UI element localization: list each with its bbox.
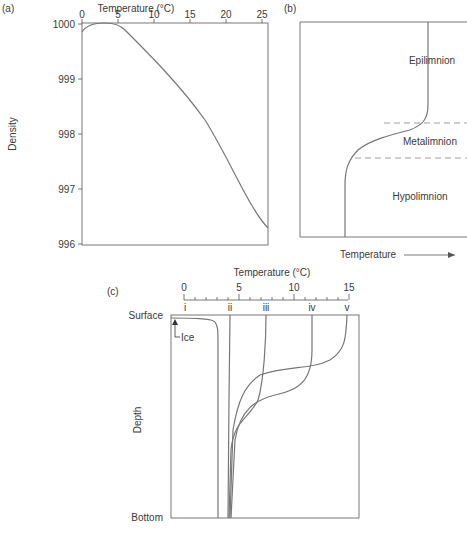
panel-a-density-curve bbox=[82, 23, 268, 228]
panel-a-y-tick-999: 999 bbox=[58, 74, 75, 85]
figure: (a) Temperature (°C) 0 5 10 15 20 25 bbox=[0, 0, 467, 537]
panel-c-profile-iii bbox=[229, 315, 266, 518]
panel-c-profile-label-iv: iv bbox=[308, 302, 315, 313]
panel-c-profile-v bbox=[230, 315, 347, 518]
panel-b-label: (b) bbox=[284, 3, 296, 14]
panel-a-x-tick-10: 10 bbox=[148, 9, 160, 20]
panel-b-epilimnion-label: Epilimnion bbox=[409, 55, 455, 66]
panel-c-x-tick-0: 0 bbox=[181, 282, 187, 293]
panel-a-x-tick-5: 5 bbox=[115, 9, 121, 20]
panel-c-profile-label-iii: iii bbox=[263, 302, 270, 313]
panel-c-label: (c) bbox=[107, 286, 119, 297]
panel-c-y-axis-title: Depth bbox=[132, 407, 143, 434]
panel-b-metalimnion-label: Metalimnion bbox=[403, 136, 457, 147]
panel-c-profile-label-v: v bbox=[345, 302, 350, 313]
panel-a-y-tick-998: 998 bbox=[58, 129, 75, 140]
panel-c-x-tick-15: 15 bbox=[343, 282, 355, 293]
panel-a-x-axis-title: Temperature (°C) bbox=[98, 3, 175, 14]
panel-b: (b) Epilimnion Metalimnion Hypolimnion T… bbox=[284, 3, 467, 260]
panel-c-profile-label-ii: ii bbox=[228, 302, 232, 313]
panel-a-y-tick-997: 997 bbox=[58, 184, 75, 195]
panel-a-y-tick-1000: 1000 bbox=[53, 19, 76, 30]
arrow-right-icon bbox=[448, 252, 455, 258]
panel-a-x-tick-20: 20 bbox=[220, 9, 232, 20]
panel-b-hypolimnion-label: Hypolimnion bbox=[392, 191, 447, 202]
panel-c-profile-label-i: i bbox=[184, 302, 186, 313]
panel-c: (c) Temperature (°C) 0 5 10 15 bbox=[107, 267, 359, 523]
panel-c-x-tick-10: 10 bbox=[288, 282, 300, 293]
arrow-up-icon bbox=[172, 319, 178, 325]
panel-a-x-tick-15: 15 bbox=[184, 9, 196, 20]
panel-c-profile-iv bbox=[231, 315, 312, 518]
panel-b-x-axis-title: Temperature bbox=[340, 249, 397, 260]
panel-c-x-axis-title: Temperature (°C) bbox=[234, 267, 311, 278]
panel-a-plot-frame bbox=[82, 23, 268, 245]
panel-c-bottom-label: Bottom bbox=[131, 512, 163, 523]
panel-c-ice-label: Ice bbox=[181, 332, 195, 343]
panel-c-surface-label: Surface bbox=[129, 310, 164, 321]
panel-a-y-axis-title: Density bbox=[7, 117, 18, 150]
panel-a: (a) Temperature (°C) 0 5 10 15 20 25 bbox=[2, 3, 268, 250]
panel-a-y-tick-996: 996 bbox=[58, 239, 75, 250]
panel-a-label: (a) bbox=[2, 3, 14, 14]
panel-c-profile-i bbox=[171, 318, 218, 518]
panel-c-x-tick-5: 5 bbox=[236, 282, 242, 293]
panel-a-x-tick-25: 25 bbox=[256, 9, 268, 20]
panel-a-x-tick-0: 0 bbox=[79, 9, 85, 20]
